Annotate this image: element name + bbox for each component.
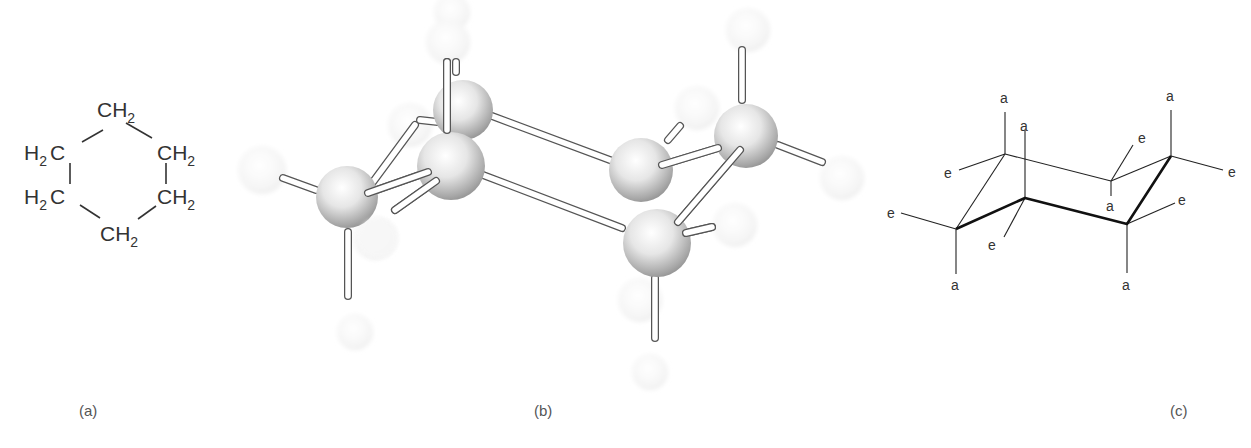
svg-text:a: a bbox=[951, 277, 959, 293]
svg-text:e: e bbox=[1178, 192, 1186, 208]
svg-text:e: e bbox=[944, 165, 952, 181]
svg-text:e: e bbox=[1138, 130, 1146, 146]
chair-diagram: a a a a a a e e e e e e bbox=[0, 0, 1251, 400]
svg-text:a: a bbox=[1000, 90, 1008, 106]
caption-c: (c) bbox=[1170, 402, 1188, 419]
svg-text:a: a bbox=[1020, 118, 1028, 134]
position-labels: a a a a a a e e e e e e bbox=[887, 88, 1236, 293]
svg-text:a: a bbox=[1122, 277, 1130, 293]
svg-text:e: e bbox=[988, 237, 996, 253]
svg-text:e: e bbox=[1228, 164, 1236, 180]
svg-text:e: e bbox=[887, 205, 895, 221]
panel-c-chair-conformation: a a a a a a e e e e e e (c) bbox=[0, 0, 1251, 448]
svg-text:a: a bbox=[1166, 88, 1174, 104]
svg-text:a: a bbox=[1106, 198, 1114, 214]
